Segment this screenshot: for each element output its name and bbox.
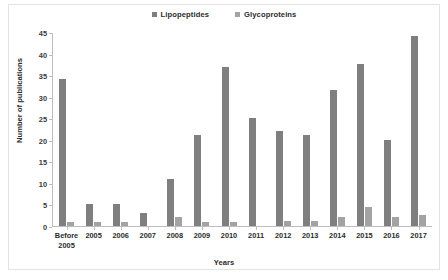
bar-group: 2014	[324, 33, 351, 226]
y-axis-tick-label: 25	[39, 115, 47, 124]
plot-area: 051015202530354045 Before 20052005200620…	[52, 33, 432, 227]
bar-lipopeptides[interactable]	[113, 204, 120, 226]
y-axis-tick-label: 30	[39, 93, 47, 102]
x-axis-tick-mark	[419, 226, 420, 230]
bar-group: 2005	[80, 33, 107, 226]
y-axis-tick-mark	[49, 33, 52, 34]
x-axis-tick-mark	[67, 226, 68, 230]
x-axis-tick-label: 2017	[410, 231, 426, 241]
bar-group: Before 2005	[53, 33, 80, 226]
bar-glycoproteins[interactable]	[419, 215, 426, 226]
y-axis-tick-label: 15	[39, 158, 47, 167]
x-axis-title: Years	[0, 258, 448, 267]
x-axis-tick-mark	[121, 226, 122, 230]
x-axis-tick-mark	[310, 226, 311, 230]
legend-entry-lipopeptides: Lipopeptides	[152, 10, 209, 19]
bar-group: 2012	[270, 33, 297, 226]
x-axis-tick-label: 2014	[329, 231, 345, 241]
bar-group: 2011	[243, 33, 270, 226]
legend-entry-glycoproteins: Glycoproteins	[235, 10, 296, 19]
y-axis-tick-mark	[49, 184, 52, 185]
x-axis-tick-mark	[337, 226, 338, 230]
x-axis-tick-mark	[283, 226, 284, 230]
y-axis-tick-mark	[49, 119, 52, 120]
x-axis-tick-mark	[229, 226, 230, 230]
x-axis-tick-label: Before 2005	[55, 231, 78, 250]
bar-lipopeptides[interactable]	[222, 67, 229, 227]
y-axis-tick-mark	[49, 98, 52, 99]
x-axis-tick-mark	[94, 226, 95, 230]
x-axis-tick-label: 2011	[248, 231, 264, 241]
y-axis-tick-label: 45	[39, 29, 47, 38]
x-axis-tick-mark	[391, 226, 392, 230]
x-axis-tick-mark	[202, 226, 203, 230]
y-axis-tick-label: 5	[43, 201, 47, 210]
x-axis-tick-label: 2012	[275, 231, 291, 241]
bar-glycoproteins[interactable]	[365, 207, 372, 226]
y-axis-tick-mark	[49, 205, 52, 206]
bar-lipopeptides[interactable]	[411, 36, 418, 226]
bar-glycoproteins[interactable]	[121, 222, 128, 226]
x-axis-tick-label: 2008	[167, 231, 183, 241]
bar-group: 2009	[188, 33, 215, 226]
publications-bar-chart: Lipopeptides Glycoproteins Number of pub…	[0, 0, 448, 280]
x-axis-tick-mark	[175, 226, 176, 230]
bar-group: 2010	[215, 33, 242, 226]
legend-label-glycoproteins: Glycoproteins	[244, 10, 296, 19]
bar-group: 2007	[134, 33, 161, 226]
bar-glycoproteins[interactable]	[202, 222, 209, 226]
y-axis-title: Number of publications	[15, 26, 24, 176]
x-axis-tick-mark	[148, 226, 149, 230]
legend-label-lipopeptides: Lipopeptides	[161, 10, 209, 19]
chart-legend: Lipopeptides Glycoproteins	[0, 10, 448, 19]
bar-group: 2006	[107, 33, 134, 226]
x-axis-tick-label: 2007	[140, 231, 156, 241]
bar-lipopeptides[interactable]	[330, 90, 337, 226]
x-axis-line	[52, 226, 432, 227]
legend-swatch-glycoproteins-icon	[235, 12, 240, 17]
bar-glycoproteins[interactable]	[338, 217, 345, 226]
y-axis-tick-mark	[49, 141, 52, 142]
y-axis-tick-mark	[49, 76, 52, 77]
x-axis-tick-label: 2015	[356, 231, 372, 241]
x-axis-tick-label: 2009	[194, 231, 210, 241]
bar-lipopeptides[interactable]	[167, 179, 174, 226]
bar-lipopeptides[interactable]	[357, 64, 364, 226]
bar-glycoproteins[interactable]	[67, 222, 74, 226]
y-axis-tick-label: 0	[43, 223, 47, 232]
y-axis-tick-label: 35	[39, 72, 47, 81]
y-axis-tick-mark	[49, 162, 52, 163]
legend-swatch-lipopeptides-icon	[152, 12, 157, 17]
bar-group: 2017	[405, 33, 432, 226]
bar-lipopeptides[interactable]	[86, 204, 93, 226]
bar-group: 2016	[378, 33, 405, 226]
bar-lipopeptides[interactable]	[194, 135, 201, 226]
bar-groups: Before 200520052006200720082009201020112…	[53, 33, 432, 226]
y-axis-tick-label: 20	[39, 136, 47, 145]
bar-lipopeptides[interactable]	[384, 140, 391, 226]
bar-group: 2013	[297, 33, 324, 226]
bar-glycoproteins[interactable]	[230, 222, 237, 226]
y-axis-tick-label: 10	[39, 179, 47, 188]
bar-lipopeptides[interactable]	[303, 135, 310, 226]
x-axis-tick-label: 2006	[112, 231, 128, 241]
bar-lipopeptides[interactable]	[276, 131, 283, 226]
x-axis-tick-label: 2010	[221, 231, 237, 241]
y-axis-tick-mark	[49, 227, 52, 228]
bar-glycoproteins[interactable]	[311, 221, 318, 226]
bar-group: 2015	[351, 33, 378, 226]
bar-lipopeptides[interactable]	[249, 118, 256, 226]
y-axis-tick-label: 40	[39, 50, 47, 59]
x-axis-tick-label: 2013	[302, 231, 318, 241]
bar-glycoproteins[interactable]	[175, 217, 182, 226]
x-axis-tick-label: 2016	[383, 231, 399, 241]
bar-lipopeptides[interactable]	[140, 213, 147, 226]
bar-group: 2008	[161, 33, 188, 226]
bar-lipopeptides[interactable]	[59, 79, 66, 226]
x-axis-tick-mark	[256, 226, 257, 230]
y-axis-tick-mark	[49, 55, 52, 56]
x-axis-tick-mark	[364, 226, 365, 230]
bar-glycoproteins[interactable]	[284, 221, 291, 226]
bar-glycoproteins[interactable]	[94, 222, 101, 226]
bar-glycoproteins[interactable]	[392, 217, 399, 226]
